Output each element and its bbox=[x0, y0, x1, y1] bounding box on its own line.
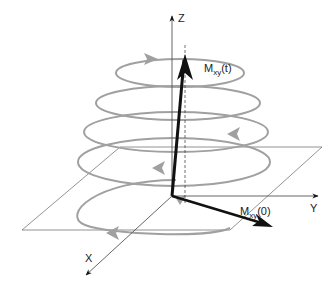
x-axis bbox=[86, 196, 172, 275]
magnetization-spiral-diagram: Z Y X Mxy(t) Mxy(0) bbox=[0, 0, 336, 286]
arrow-mid-right bbox=[227, 127, 240, 141]
mxy-t-vector bbox=[172, 60, 184, 196]
y-axis-label: Y bbox=[310, 202, 318, 214]
axes bbox=[86, 16, 318, 275]
arrow-lower-left bbox=[152, 161, 165, 175]
x-axis-label: X bbox=[85, 252, 93, 264]
z-axis-label: Z bbox=[178, 12, 185, 24]
mxy-t-label: Mxy(t) bbox=[204, 62, 232, 77]
arrow-top bbox=[144, 53, 158, 65]
arrow-bottom bbox=[106, 226, 119, 240]
